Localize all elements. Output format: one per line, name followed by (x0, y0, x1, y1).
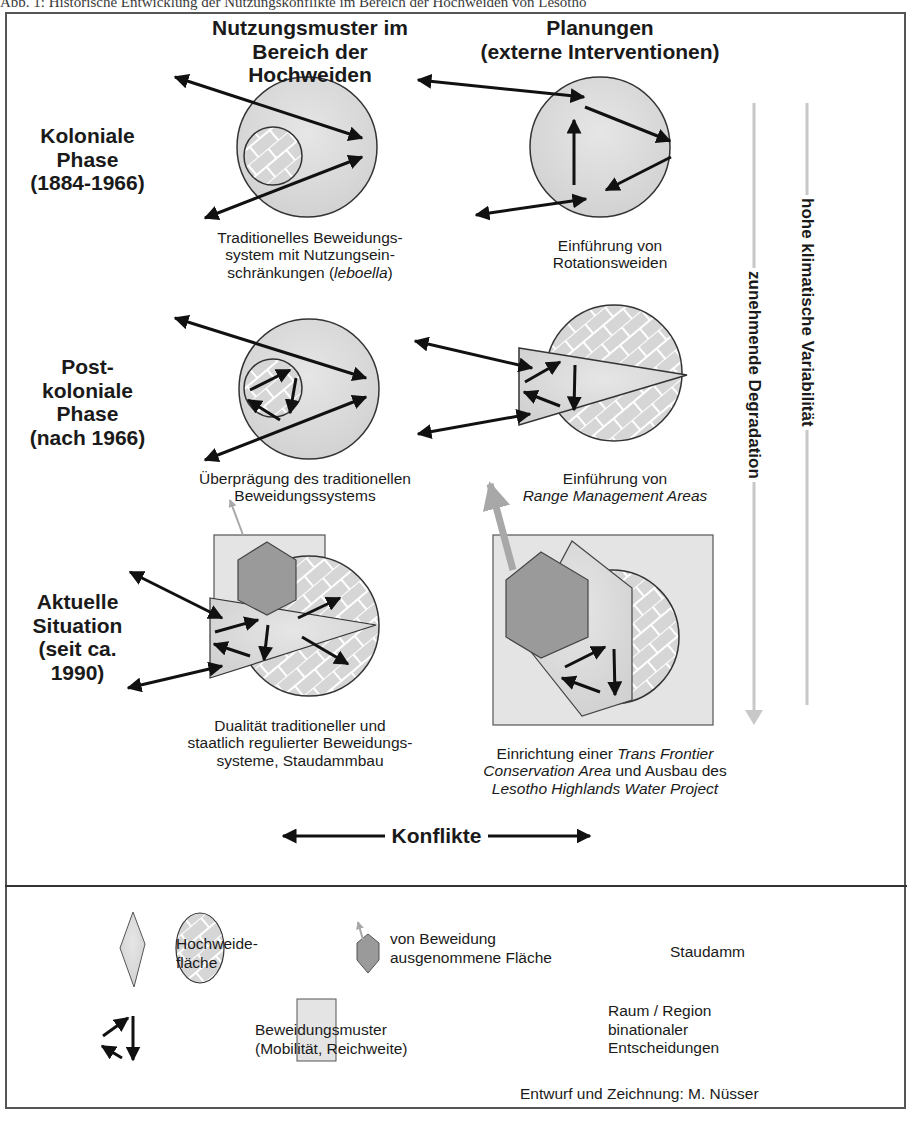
desc-r1-right: Einführung von Rotationsweiden (510, 237, 710, 272)
credit: Entwurf und Zeichnung: M. Nüsser (520, 1085, 759, 1104)
degradation-label: zunehmende Degradation (744, 268, 764, 482)
legend-dam: Staudamm (670, 943, 745, 962)
r3-right-graphic (490, 484, 713, 725)
r2-right-graphic (415, 305, 687, 441)
desc-r2-left: Überprägung des traditionellen Beweidung… (140, 470, 470, 505)
desc-r3-left: Dualität traditioneller und staatlich re… (150, 717, 450, 769)
legend-exempt-area: von Beweidung ausgenommene Fläche (390, 930, 552, 967)
r1-right-graphic (418, 77, 671, 217)
legend-grazing-pattern: Beweidungsmuster (Mobilität, Reichweite) (255, 1021, 407, 1058)
legend-hochweide: Hochweide- fläche (176, 935, 258, 972)
r1-left-graphic (175, 77, 377, 218)
phase-label-colonial: Koloniale Phase (1884-1966) (20, 124, 155, 195)
conflicts-label: Konflikte (385, 824, 488, 848)
phase-label-postcolonial: Post- koloniale Phase (nach 1966) (20, 355, 155, 449)
legend-region: Raum / Region binationaler Entscheidunge… (608, 1002, 719, 1058)
desc-r3-right: Einrichtung einer Trans Frontier Conserv… (445, 745, 765, 797)
r2-left-graphic (175, 318, 379, 460)
phase-label-current: Aktuelle Situation (seit ca. 1990) (20, 590, 135, 684)
column-header-usage: Nutzungsmuster im Bereich der Hochweiden (190, 16, 430, 87)
desc-r1-left: Traditionelles Beweidungs- system mit Nu… (180, 229, 440, 281)
climate-variability-label: hohe klimatische Variabilität (797, 195, 817, 430)
column-header-planning: Planungen (externe Interventionen) (470, 16, 730, 63)
r3-left-graphic (128, 500, 379, 696)
desc-r2-right: Einführung von Range Management Areas (495, 470, 735, 505)
